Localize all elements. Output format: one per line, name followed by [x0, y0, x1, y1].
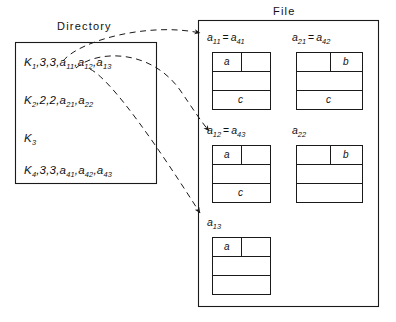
- diagram-canvas: Directory File K1,3,3,a11,a12,a13 K2,2,2…: [0, 0, 396, 322]
- block-label: a22: [292, 125, 306, 136]
- cell-bottom-a12: c: [238, 188, 243, 198]
- cell-top-right-a21: b: [343, 57, 349, 67]
- cell-bottom-a21: c: [326, 95, 331, 105]
- cell-top-right-a22: b: [343, 150, 349, 160]
- diagram-vector-layer: [0, 0, 396, 322]
- directory-row: K2,2,2,a21,a22: [24, 95, 93, 107]
- directory-row: K3: [24, 133, 36, 145]
- block-label: a13: [207, 217, 221, 228]
- block-a13-frame: [213, 238, 271, 295]
- block-label: a11=a41: [207, 32, 245, 43]
- cell-top-left-a13: a: [224, 242, 230, 252]
- block-label: a12=a43: [207, 125, 245, 136]
- cell-top-left-a12: a: [224, 150, 230, 160]
- cell-bottom-a11: c: [238, 95, 243, 105]
- file-title: File: [273, 6, 296, 17]
- block-label: a21=a42: [292, 32, 330, 43]
- cell-top-left-a11: a: [224, 57, 230, 67]
- directory-row: K1,3,3,a11,a12,a13: [24, 57, 112, 69]
- directory-title: Directory: [57, 21, 112, 32]
- pointer-to-a13: [90, 69, 200, 213]
- block-a22-frame: [297, 146, 363, 203]
- directory-row: K4,3,3,a41,a42,a43: [24, 165, 112, 177]
